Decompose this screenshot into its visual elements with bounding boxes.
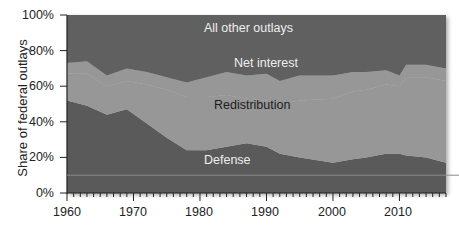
x-tick-1980: 1980 (179, 205, 219, 219)
y-tick-40: 40% (14, 115, 54, 129)
x-tick-1970: 1970 (113, 205, 153, 219)
y-tick-60: 60% (14, 79, 54, 93)
stacked-area-chart: Share of federal outlays 100% 80% 60% 40… (0, 0, 459, 227)
y-tick-100: 100% (14, 8, 54, 22)
x-tick-2010: 2010 (378, 205, 418, 219)
y-tick-80: 80% (14, 44, 54, 58)
y-tick-0: 0% (14, 186, 54, 200)
label-net-interest: Net interest (234, 56, 298, 70)
x-tick-2000: 2000 (312, 205, 352, 219)
x-tick-1960: 1960 (47, 205, 87, 219)
label-defense: Defense (204, 153, 251, 167)
label-redistribution: Redistribution (214, 98, 290, 112)
x-tick-1990: 1990 (245, 205, 285, 219)
y-tick-20: 20% (14, 150, 54, 164)
label-all-other-outlays: All other outlays (204, 21, 293, 35)
